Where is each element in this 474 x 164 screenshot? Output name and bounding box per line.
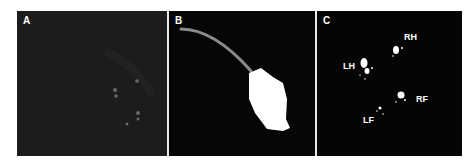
panel-c-paw-detection: C RH LH RF LF [317,11,462,156]
panel-label-a: A [23,15,30,26]
paw-label-lf: LF [363,115,374,125]
paw-print-rf [395,92,406,103]
paw-print-rh [392,46,403,57]
raw-frame-image [17,11,167,156]
paw-label-lh: LH [343,61,355,71]
body-shape [249,68,290,131]
paw-print-lf [376,107,384,115]
tail-shape [181,29,251,71]
panel-b-silhouette: B [169,11,315,156]
paw-detection-image [317,11,462,156]
panel-label-c: C [323,15,330,26]
paw-label-rh: RH [404,32,417,42]
paw-label-rf: RF [416,94,428,104]
panel-a-raw-frame: A [17,11,167,156]
faint-paw-print [113,79,140,125]
panel-label-b: B [175,15,182,26]
figure: A B [17,11,462,156]
silhouette-image [169,11,315,156]
paw-print-lh [359,58,373,80]
